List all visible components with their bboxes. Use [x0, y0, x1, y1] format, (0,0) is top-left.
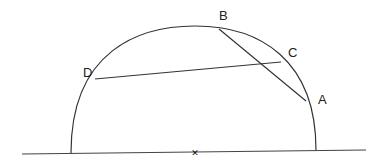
point-label-d: D — [83, 65, 92, 80]
geometry-diagram: ✕ A B C D — [0, 0, 383, 165]
point-label-a: A — [318, 92, 327, 107]
chord-ba — [219, 29, 306, 101]
semicircle-arc — [71, 26, 316, 153]
center-mark-icon: ✕ — [191, 148, 199, 158]
chord-dc — [95, 62, 281, 79]
point-label-b: B — [219, 8, 228, 23]
point-label-c: C — [288, 45, 297, 60]
